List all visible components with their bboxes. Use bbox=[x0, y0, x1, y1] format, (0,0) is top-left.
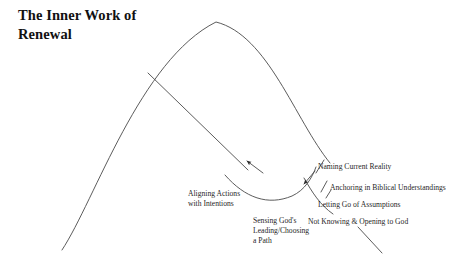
label-aligning-actions-with-intentions: Aligning Actions with Intentions bbox=[188, 189, 240, 209]
label-naming-current-reality: Naming Current Reality bbox=[318, 162, 391, 172]
diagram-canvas: The Inner Work of Renewal Naming Current… bbox=[0, 0, 462, 272]
label-anchoring-in-biblical-understandings: Anchoring in Biblical Understandings bbox=[330, 183, 446, 193]
label-not-knowing-and-opening-to-god: Not Knowing & Opening to God bbox=[308, 217, 408, 227]
inner-descending-line bbox=[148, 73, 248, 170]
page-title: The Inner Work of Renewal bbox=[18, 6, 188, 43]
downward-left-arrow bbox=[304, 171, 315, 184]
label-letting-go-of-assumptions: Letting Go of Assumptions bbox=[318, 200, 400, 210]
label-sensing-gods-leading-choosing-a-path: Sensing God's Leading/Choosing a Path bbox=[253, 216, 309, 246]
bottom-right-line bbox=[358, 227, 382, 253]
leader-anchoring bbox=[321, 181, 327, 192]
upward-left-arrow bbox=[247, 161, 263, 173]
